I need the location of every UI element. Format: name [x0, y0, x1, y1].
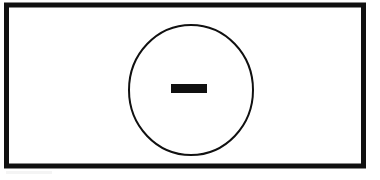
figure-canvas: Line drawing: a thick black rectangular …	[0, 0, 380, 180]
minus-bar-glyph	[171, 84, 207, 93]
line-art-figure	[0, 0, 380, 180]
scan-artifact	[6, 171, 52, 174]
